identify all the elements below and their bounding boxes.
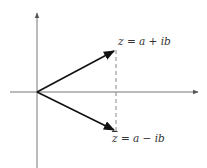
vector-z-conjugate bbox=[37, 92, 114, 130]
complex-plane-diagram bbox=[0, 0, 207, 168]
vector-z bbox=[37, 51, 114, 92]
label-z-conjugate-expression: = a − ib bbox=[118, 132, 165, 144]
label-z-conjugate: z = a − ib bbox=[112, 133, 165, 144]
label-z: z = a + ib bbox=[118, 36, 171, 47]
label-z-expression: = a + ib bbox=[124, 35, 171, 47]
